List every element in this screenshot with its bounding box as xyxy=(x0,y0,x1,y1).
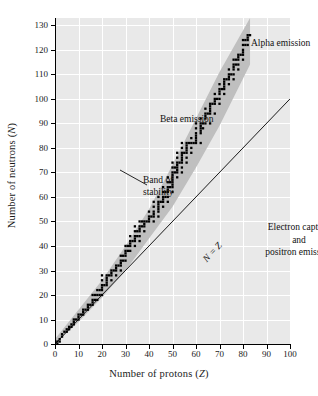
y-tick-label-110: 110 xyxy=(35,70,48,79)
data-point xyxy=(122,260,124,262)
data-point xyxy=(223,93,225,95)
y-tick-60 xyxy=(51,197,55,198)
y-tick-label-20: 20 xyxy=(39,291,48,300)
y-tick-label-80: 80 xyxy=(39,143,48,152)
data-point xyxy=(185,161,187,163)
data-point xyxy=(138,228,140,230)
data-point xyxy=(153,201,155,203)
data-point xyxy=(242,51,244,53)
data-point xyxy=(209,108,211,110)
x-tick-label-20: 20 xyxy=(98,350,107,359)
data-point xyxy=(195,139,197,141)
annotation-band-line1: Band of xyxy=(143,174,174,186)
data-point xyxy=(120,264,122,266)
data-point xyxy=(134,240,136,242)
data-point xyxy=(115,274,117,276)
data-point xyxy=(106,282,108,284)
data-point xyxy=(96,299,98,301)
data-point xyxy=(200,130,202,132)
data-point xyxy=(94,294,96,296)
y-tick-20 xyxy=(51,295,55,296)
data-point xyxy=(178,161,180,163)
x-tick-label-0: 0 xyxy=(53,350,58,359)
data-point xyxy=(101,284,103,286)
data-point xyxy=(185,152,187,154)
data-point xyxy=(247,34,249,36)
x-tick-label-90: 90 xyxy=(262,350,271,359)
data-point xyxy=(195,127,197,129)
data-point xyxy=(91,304,93,306)
data-point xyxy=(77,318,79,320)
data-point xyxy=(153,213,155,215)
data-point xyxy=(89,304,91,306)
data-point xyxy=(56,340,58,342)
data-point xyxy=(138,235,140,237)
x-tick-label-70: 70 xyxy=(215,350,224,359)
data-point xyxy=(157,208,159,210)
data-point xyxy=(87,306,89,308)
y-tick-label-90: 90 xyxy=(39,119,48,128)
data-point xyxy=(82,309,84,311)
data-point xyxy=(195,135,197,137)
data-point xyxy=(195,142,197,144)
data-point xyxy=(73,323,75,325)
data-point xyxy=(136,235,138,237)
data-point xyxy=(120,255,122,257)
data-point xyxy=(228,83,230,85)
data-point xyxy=(124,260,126,262)
data-point xyxy=(218,93,220,95)
x-tick-label-60: 60 xyxy=(192,350,201,359)
y-axis-title: Number of neutrons (N) xyxy=(6,91,17,261)
data-point xyxy=(82,313,84,315)
data-point xyxy=(232,59,234,61)
data-point xyxy=(73,318,75,320)
data-point xyxy=(157,203,159,205)
data-point xyxy=(138,240,140,242)
data-point xyxy=(63,331,65,333)
data-point xyxy=(68,328,70,330)
data-point xyxy=(209,105,211,107)
data-point xyxy=(247,36,249,38)
data-point xyxy=(214,93,216,95)
data-point xyxy=(181,171,183,173)
data-point xyxy=(77,316,79,318)
data-point xyxy=(115,269,117,271)
data-point xyxy=(138,225,140,227)
data-point xyxy=(162,198,164,200)
y-tick-label-130: 130 xyxy=(35,21,49,30)
data-point xyxy=(200,125,202,127)
data-point xyxy=(167,201,169,203)
y-axis-title-symbol: N xyxy=(6,126,17,133)
data-point xyxy=(77,313,79,315)
data-point xyxy=(181,159,183,161)
data-point xyxy=(247,44,249,46)
data-point xyxy=(218,83,220,85)
data-point xyxy=(171,161,173,163)
y-tick-label-70: 70 xyxy=(39,168,48,177)
data-point xyxy=(153,215,155,217)
data-point xyxy=(101,274,103,276)
data-point xyxy=(91,294,93,296)
y-tick-120 xyxy=(51,50,55,51)
data-point xyxy=(143,225,145,227)
y-axis-title-post: ) xyxy=(6,123,17,127)
data-point xyxy=(232,68,234,70)
nuclear-stability-chart: Alpha emission Beta emission Band of sta… xyxy=(0,0,318,396)
data-point xyxy=(70,326,72,328)
gridline-vertical-100 xyxy=(290,18,291,344)
data-point xyxy=(185,157,187,159)
data-point xyxy=(214,100,216,102)
data-point xyxy=(181,142,183,144)
data-point xyxy=(134,230,136,232)
data-point xyxy=(75,318,77,320)
data-point xyxy=(120,260,122,262)
data-point xyxy=(221,88,223,90)
data-point xyxy=(59,338,61,340)
data-point xyxy=(120,269,122,271)
data-point xyxy=(228,78,230,80)
data-point xyxy=(108,274,110,276)
data-point xyxy=(106,277,108,279)
data-point xyxy=(200,142,202,144)
data-point xyxy=(160,201,162,203)
data-point xyxy=(181,161,183,163)
